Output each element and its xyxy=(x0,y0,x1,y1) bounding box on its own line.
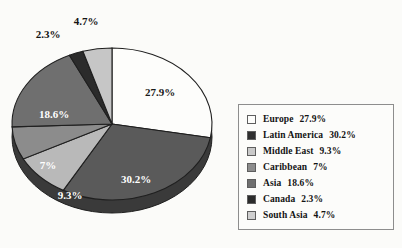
pie-svg: 27.9%30.2%9.3%7%18.6%2.3%4.7% xyxy=(8,16,224,232)
legend-item-label: Canada xyxy=(263,194,295,204)
legend-item-percent: 30.2% xyxy=(329,130,356,140)
pie-chart-figure: 27.9%30.2%9.3%7%18.6%2.3%4.7% Europe27.9… xyxy=(0,0,402,248)
chart-legend: Europe27.9%Latin America30.2%Middle East… xyxy=(238,104,394,230)
legend-item-label: Caribbean xyxy=(263,162,307,172)
legend-swatch-icon xyxy=(247,115,256,124)
legend-item-canada[interactable]: Canada2.3% xyxy=(247,191,386,207)
legend-item-asia[interactable]: Asia18.6% xyxy=(247,175,386,191)
slice-value-label-caribbean: 7% xyxy=(40,159,57,171)
slice-value-label-europe: 27.9% xyxy=(145,86,175,98)
legend-item-south-asia[interactable]: South Asia4.7% xyxy=(247,207,386,223)
pie-slices xyxy=(12,48,212,200)
legend-item-latin-america[interactable]: Latin America30.2% xyxy=(247,127,386,143)
legend-item-middle-east[interactable]: Middle East9.3% xyxy=(247,143,386,159)
legend-swatch-icon xyxy=(247,211,256,220)
legend-item-percent: 2.3% xyxy=(301,194,323,204)
legend-swatch-icon xyxy=(247,179,256,188)
legend-item-label: Latin America xyxy=(263,130,323,140)
legend-swatch-icon xyxy=(247,147,256,156)
legend-item-label: Asia xyxy=(263,178,281,188)
legend-item-label: South Asia xyxy=(263,210,308,220)
legend-item-percent: 4.7% xyxy=(314,210,336,220)
slice-value-label-middle-east: 9.3% xyxy=(58,189,83,201)
legend-swatch-icon xyxy=(247,163,256,172)
slice-value-label-latin-america: 30.2% xyxy=(121,173,151,185)
slice-value-label-asia: 18.6% xyxy=(39,108,69,120)
pie-chart-graphic: 27.9%30.2%9.3%7%18.6%2.3%4.7% xyxy=(8,16,224,232)
slice-value-label-canada: 2.3% xyxy=(36,28,61,40)
legend-swatch-icon xyxy=(247,131,256,140)
legend-item-percent: 27.9% xyxy=(300,114,327,124)
legend-item-label: Europe xyxy=(263,114,294,124)
slice-value-label-south-asia: 4.7% xyxy=(74,16,99,27)
legend-item-label: Middle East xyxy=(263,146,313,156)
legend-item-percent: 9.3% xyxy=(319,146,341,156)
legend-item-caribbean[interactable]: Caribbean7% xyxy=(247,159,386,175)
legend-item-europe[interactable]: Europe27.9% xyxy=(247,111,386,127)
legend-item-percent: 18.6% xyxy=(287,178,314,188)
legend-swatch-icon xyxy=(247,195,256,204)
legend-item-percent: 7% xyxy=(313,162,327,172)
